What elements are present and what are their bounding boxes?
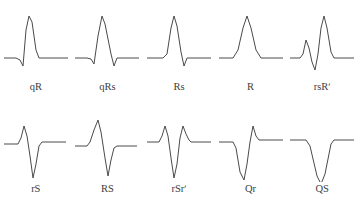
- waveform-label-rS: rS: [31, 183, 40, 195]
- waveform-rS-svg: [2, 112, 70, 182]
- waveform-qR-path: [4, 16, 68, 66]
- waveform-RS-svg: [73, 112, 141, 182]
- waveform-label-Rs: Rs: [173, 81, 184, 93]
- waveform-Rs-svg: [145, 10, 213, 80]
- waveform-label-QS: QS: [315, 183, 328, 195]
- waveform-cell-rsRprime[interactable]: rsRʹ: [286, 10, 358, 112]
- qrs-nomenclature-figure: qR qRs Rs: [0, 0, 358, 214]
- waveform-rsRprime-path: [290, 16, 354, 70]
- waveform-R: [217, 10, 285, 80]
- waveform-label-qR: qR: [30, 81, 42, 93]
- waveform-rsRprime: [288, 10, 356, 80]
- waveform-cell-qRs[interactable]: qRs: [72, 10, 144, 112]
- waveform-label-rSrprime: rSrʹ: [171, 183, 186, 195]
- waveform-Rs: [145, 10, 213, 80]
- waveform-qRs-svg: [73, 10, 141, 80]
- waveform-label-Qr: Qr: [245, 183, 256, 195]
- waveform-row-bottom: rS RS rSrʹ: [0, 112, 358, 214]
- waveform-Qr-svg: [217, 112, 285, 182]
- waveform-rS-path: [4, 126, 66, 178]
- waveform-cell-rSrprime[interactable]: rSrʹ: [143, 112, 215, 214]
- waveform-R-svg: [217, 10, 285, 80]
- waveform-qR-svg: [2, 10, 70, 80]
- waveform-QS-path: [290, 140, 354, 182]
- waveform-cell-RS[interactable]: RS: [72, 112, 144, 214]
- waveform-cell-QS[interactable]: QS: [286, 112, 358, 214]
- waveform-label-RS: RS: [101, 183, 114, 195]
- waveform-rSrprime: [145, 112, 213, 182]
- waveform-cell-rS[interactable]: rS: [0, 112, 72, 214]
- waveform-Rs-path: [147, 16, 211, 66]
- waveform-rsRprime-svg: [288, 10, 356, 80]
- waveform-cell-Rs[interactable]: Rs: [143, 10, 215, 112]
- figure-title: [0, 0, 358, 2]
- waveform-rS: [2, 112, 70, 182]
- waveform-QS-svg: [288, 112, 356, 182]
- waveform-cell-R[interactable]: R: [215, 10, 287, 112]
- waveform-row-top: qR qRs Rs: [0, 10, 358, 112]
- waveform-rSrprime-svg: [145, 112, 213, 182]
- waveform-grid: qR qRs Rs: [0, 10, 358, 214]
- waveform-QS: [288, 112, 356, 182]
- waveform-qRs: [73, 10, 141, 80]
- waveform-R-path: [219, 16, 283, 58]
- waveform-qRs-path: [75, 16, 139, 66]
- waveform-RS-path: [75, 120, 137, 176]
- waveform-Qr-path: [219, 126, 283, 180]
- waveform-qR: [2, 10, 70, 80]
- waveform-rSrprime-path: [147, 126, 211, 178]
- waveform-label-qRs: qRs: [99, 81, 115, 93]
- waveform-Qr: [217, 112, 285, 182]
- waveform-cell-Qr[interactable]: Qr: [215, 112, 287, 214]
- waveform-label-R: R: [247, 81, 254, 93]
- waveform-label-rsRprime: rsRʹ: [314, 81, 331, 93]
- waveform-RS: [73, 112, 141, 182]
- waveform-cell-qR[interactable]: qR: [0, 10, 72, 112]
